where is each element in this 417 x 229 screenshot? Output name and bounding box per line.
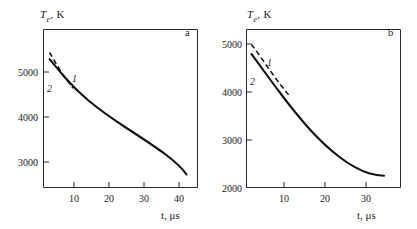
panel-b-x-tick-marks [284, 182, 366, 188]
panel-a: Te, K a 5000 4000 3000 10 20 30 40 t, μs… [0, 0, 208, 229]
panel-a-plot-area [0, 0, 208, 229]
panel-a-y-tick-marks [44, 72, 50, 162]
panel-b: Te, K b 5000 4000 3000 2000 10 20 30 t, … [209, 0, 417, 229]
panel-a-axis-frame [44, 30, 198, 188]
panel-b-y-tick-marks [247, 44, 253, 188]
figure-root: Te, K a 5000 4000 3000 10 20 30 40 t, μs… [0, 0, 417, 229]
panel-a-x-tick-marks [74, 182, 179, 188]
panel-a-curve-2-solid [50, 59, 187, 174]
panel-b-curve-1-dashed [252, 45, 290, 97]
panel-b-plot-area [209, 0, 417, 229]
panel-b-axis-frame [247, 30, 401, 188]
